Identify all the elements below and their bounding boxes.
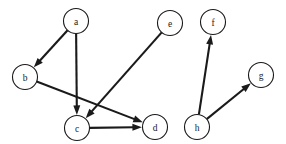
edge-h-to-f <box>199 35 213 115</box>
node-layer: abcdefgh <box>13 9 274 141</box>
node-label: e <box>168 19 172 29</box>
node-label: b <box>23 73 28 83</box>
edge-c-to-d <box>90 124 142 131</box>
edge-line <box>39 30 68 62</box>
node-label: d <box>153 123 158 133</box>
graph-node-c[interactable]: c <box>65 116 90 141</box>
node-label: c <box>75 124 79 134</box>
graph-node-b[interactable]: b <box>13 65 38 90</box>
graph-node-g[interactable]: g <box>249 63 274 88</box>
edge-b-to-d <box>37 81 143 122</box>
graph-node-e[interactable]: e <box>158 11 183 36</box>
graph-node-a[interactable]: a <box>64 9 89 34</box>
arrowhead-icon <box>73 105 80 115</box>
arrowhead-icon <box>206 35 213 45</box>
edge-line <box>207 88 245 119</box>
graph-node-h[interactable]: h <box>185 115 210 140</box>
edge-h-to-g <box>207 83 251 119</box>
node-label: h <box>195 123 200 133</box>
graph-node-f[interactable]: f <box>201 10 226 35</box>
directed-graph-figure: abcdefgh <box>0 0 286 144</box>
edge-line <box>90 127 135 128</box>
arrowhead-icon <box>133 116 143 123</box>
node-label: g <box>259 71 264 81</box>
edge-line <box>199 42 210 114</box>
graph-node-d[interactable]: d <box>143 115 168 140</box>
arrowhead-icon <box>132 124 142 131</box>
edge-e-to-c <box>86 32 162 118</box>
edge-a-to-b <box>34 30 68 67</box>
edge-layer <box>34 30 251 131</box>
edge-line <box>91 32 162 112</box>
edge-a-to-c <box>73 34 80 115</box>
edge-line <box>37 81 136 119</box>
